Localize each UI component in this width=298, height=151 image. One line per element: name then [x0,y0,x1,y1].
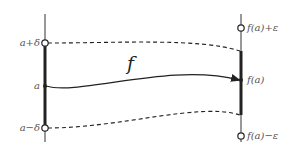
label-fa-minus-epsilon: f(a)−ε [247,131,278,141]
open-circle-upper-delta [42,40,48,46]
mapping-arrow [46,75,239,88]
label-fa-plus-epsilon: f(a)+ε [247,23,278,33]
label-a-minus-delta: a−δ [8,123,40,133]
upper-dashed-curve [48,42,240,51]
open-circle-upper-epsilon [238,25,244,31]
open-circle-lower-epsilon [238,133,244,139]
label-a: a [8,81,40,91]
label-a-plus-delta: a+δ [8,38,40,48]
open-circle-lower-delta [42,125,48,131]
lower-dashed-curve [48,111,240,128]
function-label: f [127,54,134,73]
label-fa: f(a) [247,75,264,85]
point-fa [239,78,243,82]
left-axis [42,14,48,142]
right-axis [238,14,244,142]
